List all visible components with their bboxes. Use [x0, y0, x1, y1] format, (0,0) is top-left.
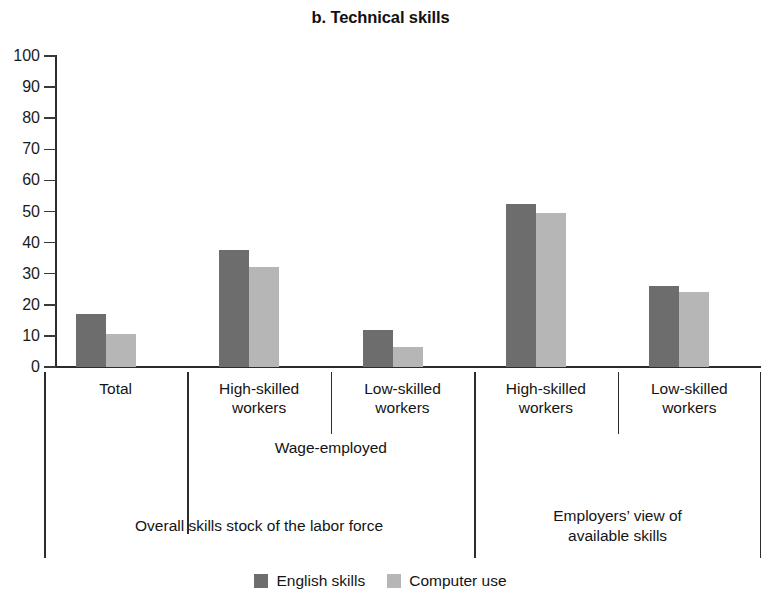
- bar-group: [649, 56, 709, 367]
- bar: [76, 314, 106, 367]
- y-axis-tick-label: 20: [4, 296, 40, 314]
- category-label-line: Low-skilled: [331, 379, 474, 398]
- category-label-table: TotalHigh-skilledworkersLow-skilledworke…: [44, 368, 761, 558]
- bar-group: [363, 56, 423, 367]
- y-axis-tick: [44, 55, 56, 57]
- group-label-tier3-line: Employers’ view of: [474, 506, 761, 526]
- category-label-line: workers: [187, 398, 330, 417]
- bar-group: [506, 56, 566, 367]
- category-label: Low-skilledworkers: [618, 379, 761, 417]
- category-label: Low-skilledworkers: [331, 379, 474, 417]
- bar: [106, 334, 136, 367]
- bar-group: [76, 56, 136, 367]
- bar: [506, 204, 536, 367]
- group-label-tier3-line: available skills: [474, 526, 761, 546]
- group-label-tier2: Wage-employed: [187, 438, 474, 457]
- bar: [363, 330, 393, 367]
- plot-area: [56, 56, 761, 367]
- legend-item: Computer use: [387, 572, 506, 590]
- legend-label: Computer use: [409, 572, 506, 590]
- legend-label: English skills: [276, 572, 365, 590]
- category-label: High-skilledworkers: [187, 379, 330, 417]
- y-axis-tick-label: 90: [4, 78, 40, 96]
- bar: [649, 286, 679, 367]
- bar: [393, 347, 423, 367]
- y-axis-tick-label: 80: [4, 109, 40, 127]
- chart-legend: English skillsComputer use: [0, 572, 761, 590]
- legend-swatch: [254, 574, 268, 588]
- bar: [219, 250, 249, 367]
- y-axis-tick: [44, 273, 56, 275]
- y-axis-tick-label: 0: [4, 358, 40, 376]
- category-label-line: Total: [44, 379, 187, 398]
- category-label-line: Low-skilled: [618, 379, 761, 398]
- bar: [249, 267, 279, 367]
- y-axis-tick: [44, 211, 56, 213]
- bar: [679, 292, 709, 367]
- y-axis-tick: [44, 117, 56, 119]
- y-axis-tick-label: 50: [4, 203, 40, 221]
- y-axis-tick-label: 100: [4, 47, 40, 65]
- y-axis-tick-label: 60: [4, 171, 40, 189]
- y-axis-tick: [44, 242, 56, 244]
- y-axis-tick: [44, 180, 56, 182]
- group-label-tier3: Overall skills stock of the labor force: [44, 516, 474, 536]
- category-label-line: workers: [331, 398, 474, 417]
- y-axis-tick: [44, 149, 56, 151]
- bar-group: [219, 56, 279, 367]
- y-axis-tick-label: 10: [4, 327, 40, 345]
- category-label-line: High-skilled: [474, 379, 617, 398]
- category-label: High-skilledworkers: [474, 379, 617, 417]
- bar: [536, 213, 566, 367]
- category-label: Total: [44, 379, 187, 398]
- y-axis-tick-label: 70: [4, 140, 40, 158]
- y-axis-tick: [44, 304, 56, 306]
- group-label-tier3-line: Overall skills stock of the labor force: [44, 516, 474, 536]
- y-axis-tick-label: 30: [4, 265, 40, 283]
- y-axis-tick: [44, 86, 56, 88]
- chart-title: b. Technical skills: [0, 8, 761, 27]
- category-label-line: High-skilled: [187, 379, 330, 398]
- legend-item: English skills: [254, 572, 365, 590]
- category-label-line: workers: [474, 398, 617, 417]
- legend-swatch: [387, 574, 401, 588]
- category-label-line: workers: [618, 398, 761, 417]
- y-axis-tick: [44, 335, 56, 337]
- group-label-tier3: Employers’ view ofavailable skills: [474, 506, 761, 546]
- y-axis-tick-label: 40: [4, 234, 40, 252]
